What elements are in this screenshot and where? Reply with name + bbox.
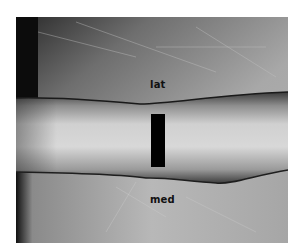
lateral-label: lat <box>150 79 166 90</box>
forearm-photo: lat med <box>16 17 288 243</box>
redaction-bar <box>151 114 165 167</box>
medial-label: med <box>150 194 175 205</box>
